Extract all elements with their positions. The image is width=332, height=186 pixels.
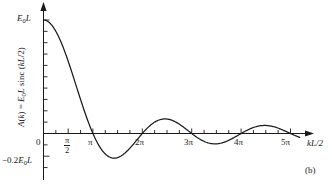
y-axis-arrowhead (40, 2, 46, 11)
x-axis-arrowhead (305, 130, 314, 136)
y-tick-label-negative: −0.2E0L (2, 156, 32, 166)
origin-label: 0 (36, 138, 41, 147)
x-tick-label-pi: π (88, 138, 93, 147)
sinc-curve (44, 20, 300, 158)
x-tick-label-5pi: 5π (281, 138, 290, 147)
y-tick-label-peak: E0L (17, 14, 31, 24)
panel-label: (b) (305, 166, 316, 175)
x-tick-label-4pi: 4π (234, 138, 243, 147)
x-tick-label-2pi: 2π (135, 138, 144, 147)
x-tick-label-3pi: 3π (184, 138, 193, 147)
sinc-plot-svg (0, 0, 332, 186)
y-axis-title: A(k) = E0L sinc (kL/2) (17, 17, 27, 157)
x-tick-label-half-pi: π2 (64, 136, 70, 154)
x-axis-title: kL/2 (307, 139, 323, 148)
figure-panel-b: A(k) = E0L sinc (kL/2) E0L −0.2E0L 0 π2 … (0, 0, 332, 186)
y-axis-ticks (44, 20, 50, 168)
